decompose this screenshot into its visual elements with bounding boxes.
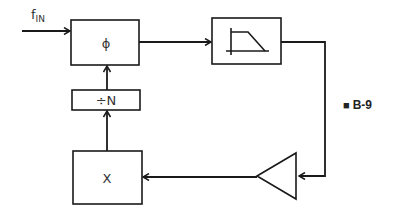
figure-label-text: ■B-9 — [343, 98, 372, 112]
multiplier-label: X — [103, 171, 112, 186]
amplifier-triangle-icon — [257, 153, 296, 199]
figure-label: ■B-9 — [343, 98, 372, 112]
divider-block: ÷N — [72, 90, 140, 110]
input-signal: fIN — [22, 7, 70, 31]
phase-detector-label: ϕ — [102, 36, 111, 51]
phase-detector-block: ϕ — [71, 20, 139, 65]
divider-label: ÷N — [96, 93, 117, 108]
multiplier-block: X — [73, 151, 142, 204]
block-diagram: fIN ϕ X ÷N ■B-9 — [0, 0, 393, 213]
wire-filter-to-amplifier — [281, 42, 325, 176]
amplifier-block — [257, 153, 296, 199]
low-pass-filter-block — [212, 18, 281, 64]
input-label: fIN — [31, 7, 45, 24]
